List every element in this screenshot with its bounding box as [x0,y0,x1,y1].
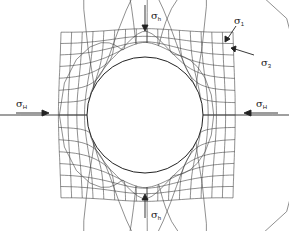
grid-line-horizontal [60,175,233,188]
borehole-diagram [0,0,289,231]
label-sigma-h-bottom: σh [151,210,161,221]
label-sigma-3: σ3 [261,58,271,69]
arrow-sigma-3 [235,49,254,55]
label-sigma-h-top: σh [151,11,161,22]
borehole-circle [87,57,203,173]
grid-line-horizontal [60,42,233,55]
arrowhead-left-diag-icon [231,46,236,52]
label-sigma-H-left: σH [16,99,27,110]
label-sigma-1: σ1 [234,16,244,27]
label-sigma-H-right: σH [256,99,267,110]
